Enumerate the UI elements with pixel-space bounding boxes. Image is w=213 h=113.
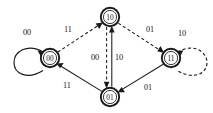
node-00[interactable]: 00 [41, 49, 59, 67]
node-11-label: 11 [167, 54, 174, 63]
edge-10-to-00-label: 11 [64, 25, 72, 34]
edge-01-to-10 [109, 26, 115, 87]
edge-11-to-01-label: 01 [144, 83, 152, 92]
edge-01-to-00-label: 11 [63, 81, 71, 90]
node-10-label: 10 [106, 13, 114, 22]
self-loop-00-label: 00 [23, 28, 31, 37]
edge-10-to-11-label: 01 [146, 25, 154, 34]
edge-10-to-11-path [118, 23, 163, 52]
edge-01-to-10-label: 10 [115, 53, 123, 62]
edge-10-to-01-label: 00 [91, 53, 99, 62]
node-01[interactable]: 01 [101, 88, 119, 106]
node-11[interactable]: 11 [162, 49, 180, 67]
node-01-label: 01 [106, 93, 114, 102]
state-diagram-canvas: 00 10 11 01 00 10 11 01 11 01 00 10 [0, 0, 213, 113]
edge-10-to-00-arrowhead [96, 22, 103, 29]
edge-11-to-01 [118, 64, 163, 92]
self-loop-11-label: 10 [178, 29, 186, 38]
edge-10-to-01 [104, 27, 110, 89]
state-diagram-container: 00 10 11 01 00 10 11 01 11 01 00 10 [0, 0, 213, 113]
self-loop-11 [177, 48, 207, 75]
self-loop-00 [14, 48, 44, 75]
edge-10-to-11 [118, 23, 164, 53]
node-10[interactable]: 10 [101, 8, 119, 26]
edge-11-to-01-arrowhead [118, 87, 125, 92]
node-00-label: 00 [46, 54, 54, 63]
edge-11-to-01-path [119, 64, 163, 91]
